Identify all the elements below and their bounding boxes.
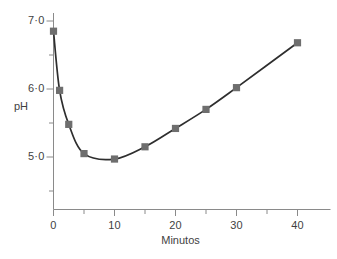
tick-marks-group — [47, 21, 298, 216]
x-tick-label: 0 — [39, 219, 69, 231]
data-point-marker — [111, 155, 118, 162]
ph-vs-time-chart: 5·06·07·0 010203040 pH Minutos — [0, 0, 337, 259]
data-point-marker — [80, 150, 87, 157]
data-point-marker — [56, 87, 63, 94]
x-tick-label: 30 — [222, 219, 252, 231]
axes-group — [54, 13, 331, 210]
y-tick-label: 5·0 — [17, 150, 45, 162]
data-point-marker — [141, 143, 148, 150]
data-markers-group — [50, 28, 301, 163]
data-point-marker — [65, 121, 72, 128]
x-tick-label: 10 — [100, 219, 130, 231]
data-point-marker — [202, 106, 209, 113]
data-point-marker — [172, 125, 179, 132]
y-axis-title: pH — [14, 100, 28, 112]
data-line-ph — [54, 31, 298, 159]
y-tick-label: 7·0 — [17, 14, 45, 26]
x-axis-title: Minutos — [12, 234, 337, 246]
data-point-marker — [294, 39, 301, 46]
data-point-marker — [50, 28, 57, 35]
x-tick-label: 40 — [283, 219, 313, 231]
x-tick-label: 20 — [161, 219, 191, 231]
y-tick-label: 6·0 — [17, 82, 45, 94]
data-point-marker — [233, 84, 240, 91]
